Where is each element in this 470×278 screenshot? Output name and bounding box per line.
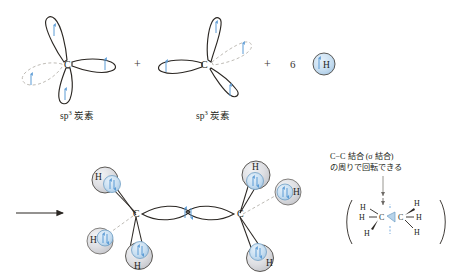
hydrogen-orbital-circle <box>277 184 293 200</box>
hydrogen-coefficient: 6 <box>290 58 296 70</box>
rotation-annotation-line2: の周りで回転できる <box>330 162 402 173</box>
orbital-lobe <box>210 68 238 97</box>
plus-sign-2: + <box>264 57 271 71</box>
bond-line <box>405 220 413 228</box>
rotation-annotation: C−C 結合 (σ 結合) の周りで回転できる <box>330 151 402 173</box>
orbital-lobe <box>207 18 221 62</box>
atom-label-hydrogen: H <box>416 213 422 222</box>
ethane-structural-formula: C H H H C H H H <box>347 198 446 244</box>
atom-label-hydrogen: H <box>95 172 102 182</box>
orbital-lobe <box>72 59 116 72</box>
rotation-annotation-line1: C−C 結合 (σ 結合) <box>330 151 402 162</box>
hydrogen-atom-outer-right: H <box>275 179 301 205</box>
paren-open <box>347 200 352 244</box>
stereo-wedge <box>387 212 395 222</box>
ethane-molecule: C C H H <box>87 161 301 272</box>
sigma-bond-lobe-right <box>186 206 234 220</box>
hydrogen-orbital-circle <box>97 230 113 246</box>
hydrogen-atom-upper-right: H <box>242 161 270 190</box>
orbital-lobe <box>46 17 67 62</box>
orbital-lobe <box>59 68 72 104</box>
atom-label-carbon-left: C <box>379 213 384 222</box>
atom-label-hydrogen: H <box>252 162 259 172</box>
hydrogen-sphere-term: H <box>313 53 335 75</box>
orbital-lobe-dashed <box>212 42 252 65</box>
bond-line <box>240 217 252 250</box>
sigma-bond-lobe-left <box>142 206 190 220</box>
atom-label-carbon: C <box>64 59 71 70</box>
hydrogen-atom-bottom-right: H <box>247 244 274 272</box>
atom-label-carbon-right: C <box>398 213 403 222</box>
caption-sp3-carbon-right: sp3 炭素 <box>196 108 230 122</box>
bond-wedge <box>405 208 415 215</box>
atom-label-hydrogen: H <box>134 261 141 271</box>
diagram-svg: C C + + 6 <box>0 0 470 278</box>
atom-label-hydrogen: H <box>360 203 366 212</box>
sp3-carbon-left: C <box>22 17 115 104</box>
caption-suffix: 炭素 <box>208 111 230 121</box>
atom-label-hydrogen: H <box>414 228 420 237</box>
plus-sign-1: + <box>134 57 141 71</box>
hydrogen-atom-lower-left: H <box>87 228 113 254</box>
atom-label-carbon-right: C <box>237 208 244 219</box>
atom-label-hydrogen: H <box>359 213 365 222</box>
hydrogen-orbital-circle <box>104 176 121 193</box>
hydrogen-orbital-circle <box>250 244 267 261</box>
atom-label-hydrogen: H <box>266 258 273 268</box>
atom-label-carbon-left: C <box>133 208 140 219</box>
atom-label-hydrogen: H <box>414 199 420 208</box>
hydrogen-atom-upper-left: H <box>92 167 121 193</box>
atom-label-hydrogen: H <box>364 229 370 238</box>
atom-label-hydrogen: H <box>323 60 330 70</box>
caption-suffix: 炭素 <box>72 111 94 121</box>
hydrogen-orbital-circle <box>132 242 149 259</box>
hydrogen-atom-bottom-left: H <box>126 242 153 272</box>
atom-label-hydrogen: H <box>293 187 300 197</box>
orbital-lobe-dashed <box>22 63 62 85</box>
hydrogen-orbital-circle <box>247 173 264 190</box>
orbital-lobe <box>159 60 203 73</box>
sp3-carbon-right: C <box>159 18 252 97</box>
bond-wedge <box>371 220 378 230</box>
figure-canvas: C C + + 6 <box>0 0 470 278</box>
caption-sp3-carbon-left: sp3 炭素 <box>60 108 94 122</box>
atom-label-hydrogen: H <box>90 235 97 245</box>
atom-label-carbon: C <box>201 59 208 70</box>
bond-line <box>370 209 378 214</box>
paren-close <box>440 200 445 244</box>
